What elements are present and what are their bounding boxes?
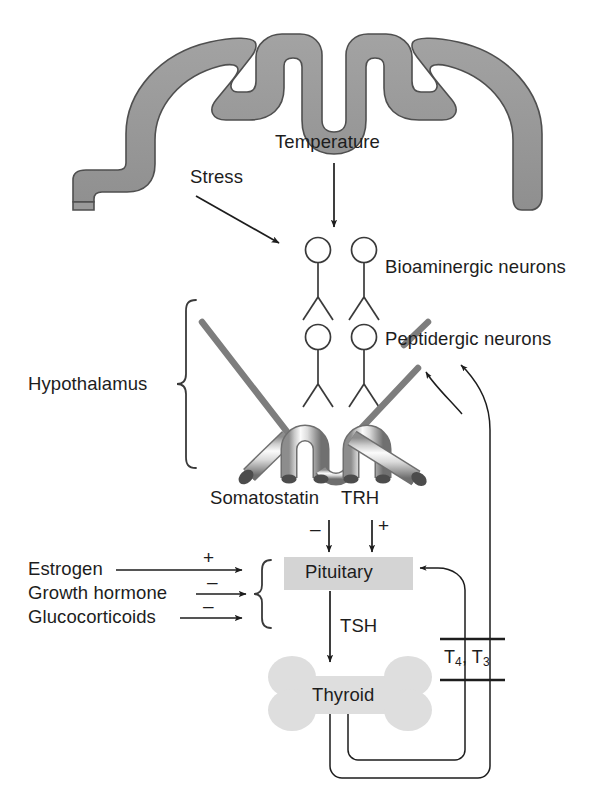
- sign-glucocorticoids: –: [203, 596, 214, 615]
- label-somatostatin: Somatostatin: [210, 489, 319, 508]
- label-trh: TRH: [341, 489, 379, 508]
- label-tsh: TSH: [340, 617, 377, 636]
- t3-subscript: 3: [483, 655, 490, 669]
- label-stress: Stress: [190, 168, 243, 187]
- label-growth-hormone: Growth hormone: [28, 584, 167, 603]
- t4-symbol: T: [444, 647, 455, 667]
- label-peptidergic-neurons: Peptidergic neurons: [385, 330, 551, 349]
- sign-estrogen: +: [203, 548, 214, 567]
- sign-trh-positive: +: [378, 516, 389, 535]
- brain-cortex-icon: [73, 34, 542, 210]
- label-thyroid: Thyroid: [312, 686, 374, 705]
- label-pituitary: Pituitary: [305, 563, 373, 582]
- axon-tract-left: [202, 322, 288, 433]
- peptidergic-neuron-left-icon: [303, 325, 333, 408]
- figure-canvas: Temperature Stress Bioaminergic neurons …: [0, 0, 602, 800]
- hormone-comma: ,: [462, 647, 472, 667]
- sign-somatostatin-negative: –: [310, 519, 321, 538]
- label-estrogen: Estrogen: [28, 560, 103, 579]
- t4-subscript: 4: [455, 655, 462, 669]
- label-temperature: Temperature: [275, 133, 380, 152]
- peptidergic-pointer-arrow: [426, 372, 462, 414]
- label-hypothalamus: Hypothalamus: [28, 375, 147, 394]
- label-bioaminergic-neurons: Bioaminergic neurons: [385, 258, 566, 277]
- peptidergic-neuron-right-icon: [349, 325, 379, 408]
- diagram-svg: [0, 0, 602, 800]
- label-thyroid-hormones: T4, T3: [444, 648, 490, 668]
- portal-tubes-icon: [236, 433, 430, 489]
- label-glucocorticoids: Glucocorticoids: [28, 608, 156, 627]
- modulator-brace: [254, 560, 271, 628]
- sign-growth-hormone: –: [207, 572, 218, 591]
- hypothalamus-brace: [177, 300, 196, 468]
- t3-symbol: T: [472, 647, 483, 667]
- bioaminergic-neuron-left-icon: [303, 238, 333, 321]
- stress-arrow: [196, 196, 279, 243]
- bioaminergic-neuron-right-icon: [349, 238, 379, 321]
